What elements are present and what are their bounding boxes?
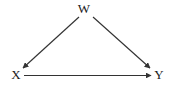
edge-w-to-x (23, 17, 79, 68)
edge-w-to-y (93, 17, 150, 68)
node-label-x: X (2, 68, 30, 81)
node-label-y: Y (145, 68, 172, 81)
dag-diagram: W X Y (0, 0, 172, 90)
node-label-w: W (70, 2, 98, 15)
